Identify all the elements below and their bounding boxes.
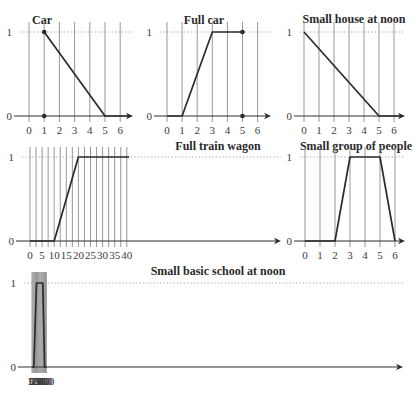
x-tick-label: 1 [179, 124, 185, 136]
x-tick-label: 2 [331, 124, 337, 136]
y-tick-label: 1 [11, 277, 17, 289]
chart-title: Full car [184, 13, 225, 27]
x-tick-label: 0 [26, 124, 32, 136]
x-tick-label: 6 [117, 124, 123, 136]
x-tick-label: 6 [255, 124, 261, 136]
chart-title: Small basic school at noon [151, 264, 286, 278]
x-tick-label: 1 [317, 249, 323, 261]
panel-car: Car 012345601 [7, 13, 134, 136]
x-tick-label: 2 [57, 124, 63, 136]
panel-small-house-at-noon: Small house at noon 012345601 [287, 12, 406, 136]
y-tick-label: 1 [287, 151, 293, 163]
x-tick-label: 0 [27, 249, 33, 261]
x-tick-label: 0 [301, 124, 307, 136]
x-tick-label: 5 [39, 249, 45, 261]
y-tick-label: 1 [7, 26, 13, 38]
x-tick-label: 4 [225, 124, 231, 136]
panel-small-group-of-people: Small group of people 012345601 [287, 139, 413, 261]
x-tick-label: 6 [392, 249, 398, 261]
y-tick-label: 1 [9, 151, 15, 163]
x-tick-label: 4 [87, 124, 93, 136]
y-tick-label: 0 [147, 110, 153, 122]
data-point-marker [42, 30, 47, 35]
x-tick-label: 6 [391, 124, 397, 136]
x-tick-label: 5 [376, 124, 382, 136]
x-tick-label: 2 [332, 249, 338, 261]
x-tick-label: 1 [41, 124, 47, 136]
x-tick-label: 10 [49, 249, 61, 261]
x-tick-label: 5 [102, 124, 108, 136]
x-tick-label: 3 [347, 249, 353, 261]
y-tick-label: 0 [7, 110, 13, 122]
membership-curve [167, 32, 243, 116]
panel-full-train-wagon: Full train wagon 051015202530354001 [9, 139, 282, 261]
x-tick-label: 4 [361, 124, 367, 136]
y-tick-label: 1 [287, 26, 293, 38]
y-tick-label: 1 [147, 26, 153, 38]
y-tick-label: 0 [287, 110, 293, 122]
x-tick-label: 5 [377, 249, 383, 261]
x-tick-label: 3 [346, 124, 352, 136]
membership-curve [44, 32, 129, 116]
x-tick-label: 3 [210, 124, 216, 136]
y-tick-label: 0 [11, 361, 17, 373]
data-point-marker [240, 30, 245, 35]
x-tick-label: 400 [38, 375, 55, 387]
x-tick-label: 35 [109, 249, 121, 261]
data-point-marker [42, 114, 47, 119]
fuzzy-membership-figure: Car 012345601 Full car 012345601 Small h… [0, 0, 418, 394]
data-point-marker [240, 114, 245, 119]
x-tick-label: 40 [121, 249, 133, 261]
panel-full-car: Full car 012345601 [147, 13, 272, 136]
chart-title: Full train wagon [175, 139, 261, 153]
y-tick-label: 0 [287, 235, 293, 247]
x-tick-label: 20 [73, 249, 85, 261]
x-tick-label: 15 [61, 249, 73, 261]
x-tick-label: 0 [164, 124, 170, 136]
x-tick-label: 0 [302, 249, 308, 261]
x-tick-label: 30 [97, 249, 109, 261]
x-tick-label: 25 [85, 249, 97, 261]
chart-title: Small house at noon [302, 12, 405, 26]
x-tick-label: 5 [240, 124, 246, 136]
x-tick-label: 1 [316, 124, 322, 136]
y-tick-label: 0 [9, 235, 15, 247]
chart-title: Small group of people [300, 139, 413, 153]
panel-small-basic-school-at-noon: Small basic school at noon 0501001502002… [11, 264, 404, 387]
x-tick-label: 4 [362, 249, 368, 261]
chart-title: Car [32, 13, 53, 27]
x-tick-label: 3 [72, 124, 78, 136]
x-tick-label: 2 [194, 124, 200, 136]
